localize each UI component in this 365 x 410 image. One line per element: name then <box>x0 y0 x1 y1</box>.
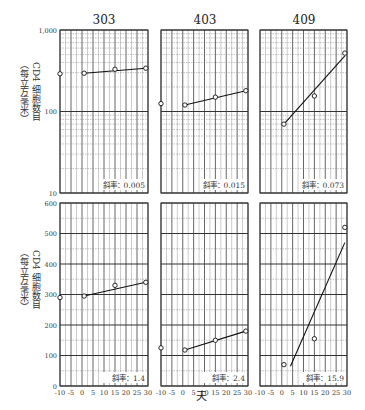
svg-text:5: 5 <box>291 389 295 397</box>
svg-text:-5: -5 <box>68 389 74 397</box>
svg-text:30: 30 <box>144 389 152 397</box>
panel-bottom-303: 0100200300400500600-10-5051015202530斜率：1… <box>45 200 153 398</box>
svg-text:300: 300 <box>45 291 57 299</box>
svg-text:20: 20 <box>222 389 230 397</box>
svg-text:0: 0 <box>280 389 284 397</box>
svg-text:15: 15 <box>211 389 219 397</box>
svg-text:0: 0 <box>80 389 84 397</box>
svg-text:15: 15 <box>111 389 119 397</box>
svg-text:-10: -10 <box>55 389 65 397</box>
svg-text:5: 5 <box>91 389 95 397</box>
panel-title-409: 409 <box>260 13 348 27</box>
svg-text:25: 25 <box>332 389 340 397</box>
svg-text:斜率：1.4: 斜率：1.4 <box>112 373 145 383</box>
plot-area: 101001,000斜率：0.005斜率：0.015斜率：0.073010020… <box>0 0 365 410</box>
svg-text:25: 25 <box>133 389 141 397</box>
svg-text:-5: -5 <box>169 389 175 397</box>
svg-text:20: 20 <box>122 389 130 397</box>
svg-text:10: 10 <box>200 389 208 397</box>
panel-top-403: 斜率：0.015 <box>159 30 248 193</box>
svg-text:25: 25 <box>233 389 241 397</box>
svg-text:斜率：0.015: 斜率：0.015 <box>203 180 246 190</box>
svg-text:30: 30 <box>343 389 351 397</box>
svg-text:400: 400 <box>45 261 57 269</box>
panel-top-409: 斜率：0.073 <box>260 30 347 193</box>
svg-text:5: 5 <box>192 389 196 397</box>
svg-text:200: 200 <box>45 322 57 330</box>
svg-text:10: 10 <box>299 389 307 397</box>
svg-text:斜率：2.4: 斜率：2.4 <box>212 373 245 383</box>
panel-title-403: 403 <box>161 13 249 27</box>
svg-text:斜率：0.005: 斜率：0.005 <box>103 180 146 190</box>
svg-text:1,000: 1,000 <box>38 27 57 35</box>
panel-title-303: 303 <box>60 13 148 27</box>
svg-text:斜率：15.9: 斜率：15.9 <box>306 373 344 383</box>
panel-top-303: 101001,000斜率：0.005 <box>38 27 148 198</box>
svg-text:-10: -10 <box>255 389 265 397</box>
svg-text:15: 15 <box>310 389 318 397</box>
figure: CD4 细胞数目 （每立方毫米） CD4 细胞数目 （每立方毫米） 天 1010… <box>0 0 365 410</box>
svg-text:10: 10 <box>49 190 57 198</box>
svg-text:100: 100 <box>45 108 57 116</box>
svg-text:-10: -10 <box>156 389 166 397</box>
panel-bottom-403: -10-5051015202530斜率：2.4 <box>156 203 252 397</box>
svg-text:-5: -5 <box>268 389 274 397</box>
svg-text:20: 20 <box>321 389 329 397</box>
svg-text:30: 30 <box>244 389 252 397</box>
svg-text:斜率：0.073: 斜率：0.073 <box>302 180 345 190</box>
svg-text:500: 500 <box>45 230 57 238</box>
svg-text:600: 600 <box>45 200 57 208</box>
panel-bottom-409: -10-5051015202530斜率：15.9 <box>255 203 351 397</box>
svg-text:0: 0 <box>181 389 185 397</box>
svg-text:10: 10 <box>100 389 108 397</box>
svg-text:100: 100 <box>45 352 57 360</box>
